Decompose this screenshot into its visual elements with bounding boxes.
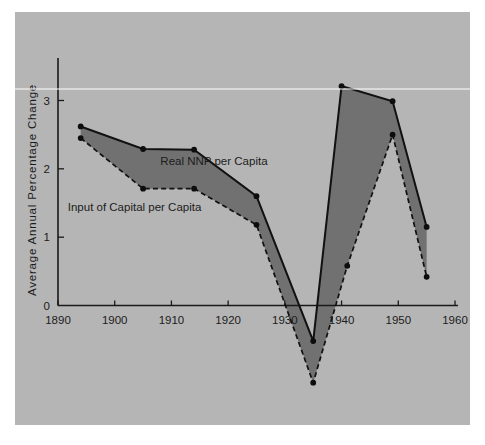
data-point-marker [424, 274, 430, 280]
x-tick-label-1920: 1920 [215, 314, 241, 326]
x-tick-label-1910: 1910 [159, 314, 185, 326]
y-tick-label-3: 3 [44, 95, 50, 107]
chart-figure: 18901900191019201930194019501960 0123 Re… [0, 0, 485, 445]
series-annotation: Input of Capital per Capita [68, 201, 202, 213]
data-point-marker [254, 222, 260, 228]
data-point-marker [254, 193, 260, 199]
x-tick-label-1960: 1960 [442, 314, 468, 326]
y-axis-ticks [58, 101, 64, 238]
x-tick-label-1940: 1940 [329, 314, 355, 326]
series-annotation: Real NNP per Capita [160, 155, 268, 167]
x-tick-label-1950: 1950 [385, 314, 411, 326]
data-point-marker [344, 263, 350, 269]
data-point-marker [78, 135, 84, 141]
data-point-marker [424, 224, 430, 230]
data-point-marker [310, 338, 316, 344]
x-tick-label-1930: 1930 [272, 314, 298, 326]
data-point-marker [191, 147, 197, 153]
y-tick-label-0: 0 [44, 300, 50, 312]
y-tick-label-2: 2 [44, 163, 50, 175]
data-point-marker [310, 380, 316, 386]
data-point-marker [390, 132, 396, 138]
y-tick-label-1: 1 [44, 231, 50, 243]
x-tick-label-1900: 1900 [102, 314, 128, 326]
chart-plot: 18901900191019201930194019501960 0123 Re… [0, 0, 485, 445]
data-point-marker [390, 98, 396, 104]
data-point-marker [140, 186, 146, 192]
data-point-marker [78, 124, 84, 130]
shaded-band-between-series [81, 86, 427, 382]
chart-axes [58, 58, 458, 306]
x-tick-label-1890: 1890 [45, 314, 71, 326]
x-axis-tick-labels: 18901900191019201930194019501960 [45, 314, 468, 326]
y-axis-tick-labels: 0123 [44, 95, 50, 312]
data-point-marker [191, 186, 197, 192]
data-point-marker [140, 146, 146, 152]
y-axis-title: Average Annual Percentage Change [26, 84, 38, 296]
data-point-marker [339, 83, 345, 89]
